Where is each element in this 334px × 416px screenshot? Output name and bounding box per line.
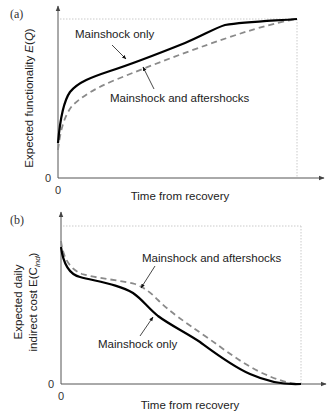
chart-panel-a: (a) Mainshock only Mainshock and aftersh… <box>10 6 324 202</box>
y-axis-label: Expected functionality E(Q) <box>23 28 35 168</box>
annotation-mainshock-only: Mainshock only <box>75 28 155 40</box>
series-mainshock-only <box>61 247 301 384</box>
annotation-mainshock-and-aftershocks: Mainshock and aftershocks <box>110 92 250 104</box>
annotation-arrow <box>112 45 126 59</box>
chart-panel-b: (b) Mainshock and aftershocks Mainshock … <box>10 212 326 411</box>
annotation-arrow <box>143 67 154 89</box>
x-origin-label: 0 <box>58 390 64 402</box>
y-origin-label: 0 <box>48 378 54 390</box>
x-axis-label: Time from recovery <box>131 190 230 202</box>
y-axis-label-line2: indirect cost E(Cind) <box>27 252 42 351</box>
x-origin-label: 0 <box>55 184 61 196</box>
panel-label-a: (a) <box>10 7 23 21</box>
figure: (a) Mainshock only Mainshock and aftersh… <box>0 0 334 416</box>
annotation-arrow <box>140 317 153 336</box>
y-origin-label: 0 <box>45 172 51 184</box>
panel-label-b: (b) <box>10 213 24 227</box>
annotation-mainshock-only: Mainshock only <box>98 338 178 350</box>
annotation-mainshock-and-aftershocks: Mainshock and aftershocks <box>142 252 282 264</box>
x-axis-label: Time from recovery <box>141 399 240 411</box>
annotation-arrow <box>141 266 155 288</box>
y-axis-label-line1: Expected daily <box>12 264 24 339</box>
